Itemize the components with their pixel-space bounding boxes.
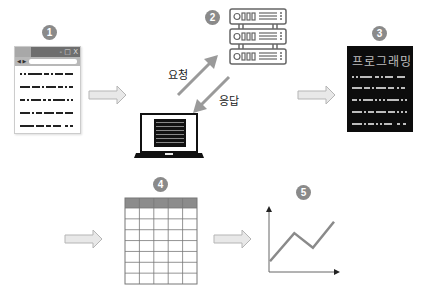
programming-document: 프로그래밍 xyxy=(347,46,413,132)
graph-series-line xyxy=(270,222,334,261)
graph-x-axis-arrowhead xyxy=(334,269,340,275)
step-badge-2: 2 xyxy=(205,10,220,25)
document-text-lines xyxy=(347,72,413,132)
address-bar xyxy=(29,59,77,64)
browser-toolbar: ◀ ▶ xyxy=(15,57,80,66)
response-label: 응답 xyxy=(219,92,239,108)
request-label: 요청 xyxy=(168,66,188,82)
server-rack-icon xyxy=(229,8,289,68)
nav-arrows-icon: ◀ ▶ xyxy=(17,57,26,66)
step-badge-4: 4 xyxy=(153,177,168,192)
line-graph-icon xyxy=(264,206,344,276)
browser-window-illustration: - □ X ◀ ▶ xyxy=(14,46,81,134)
document-title: 프로그래밍 xyxy=(352,52,412,69)
data-table-icon xyxy=(124,197,198,285)
laptop-icon xyxy=(136,113,206,163)
flow-arrow-2 xyxy=(298,86,338,104)
flow-arrow-1 xyxy=(89,86,129,104)
graph-y-axis-arrowhead xyxy=(266,206,272,212)
browser-titlebar: - □ X xyxy=(15,47,80,57)
step-badge-5: 5 xyxy=(296,185,311,200)
step-badge-3: 3 xyxy=(372,26,387,41)
table-header-row xyxy=(125,198,197,208)
step-badge-1: 1 xyxy=(42,25,57,40)
flow-arrow-4 xyxy=(214,230,254,248)
flow-arrow-3 xyxy=(65,230,105,248)
window-controls-icon: - □ X xyxy=(60,47,78,57)
browser-tab-shape xyxy=(15,47,31,57)
table-border xyxy=(125,198,197,284)
browser-text-lines xyxy=(15,66,80,132)
